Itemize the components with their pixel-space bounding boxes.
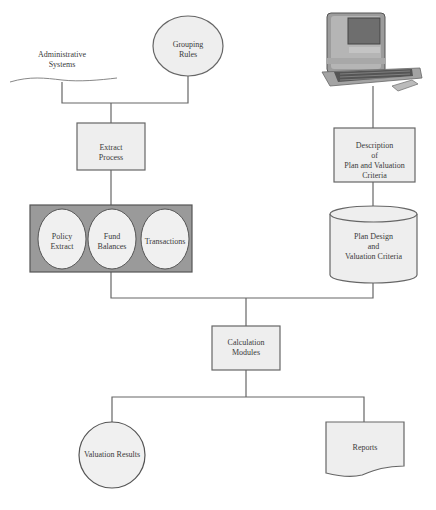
policy-extract-line2: Extract bbox=[38, 242, 86, 252]
description-label: Description of Plan and Valuation Criter… bbox=[334, 141, 415, 181]
reports-label: Reports bbox=[326, 443, 404, 453]
grouping-rules-label: Grouping Rules bbox=[153, 40, 223, 60]
calculation-modules-line1: Calculation bbox=[212, 338, 280, 348]
plan-design-label: Plan Design and Valuation Criteria bbox=[330, 232, 417, 262]
connector-inputs bbox=[62, 76, 188, 103]
plan-design-line3: Valuation Criteria bbox=[330, 252, 417, 262]
computer-icon bbox=[322, 13, 422, 91]
description-line3: Plan and Valuation Criteria bbox=[334, 161, 415, 181]
policy-extract-line1: Policy bbox=[38, 232, 86, 242]
valuation-results-label: Valuation Results bbox=[79, 450, 145, 460]
grouping-rules-line1: Grouping bbox=[153, 40, 223, 50]
calculation-modules-line2: Modules bbox=[212, 348, 280, 358]
administrative-systems-line1: Administrative bbox=[22, 50, 102, 60]
policy-extract-label: Policy Extract bbox=[38, 232, 86, 252]
administrative-systems-label: Administrative Systems bbox=[22, 50, 102, 70]
extract-process-label: Extract Process bbox=[77, 143, 145, 163]
plan-design-line1: Plan Design bbox=[330, 232, 417, 242]
connector-outputs bbox=[112, 397, 364, 422]
description-line1: Description bbox=[334, 141, 415, 151]
fund-balances-line1: Fund bbox=[88, 232, 136, 242]
transactions-label: Transactions bbox=[139, 237, 191, 247]
administrative-systems-shape bbox=[10, 78, 117, 82]
grouping-rules-line2: Rules bbox=[153, 50, 223, 60]
extract-process-line2: Process bbox=[77, 153, 145, 163]
fund-balances-line2: Balances bbox=[88, 242, 136, 252]
calculation-modules-label: Calculation Modules bbox=[212, 338, 280, 358]
description-line2: of bbox=[334, 151, 415, 161]
extract-process-line1: Extract bbox=[77, 143, 145, 153]
fund-balances-label: Fund Balances bbox=[88, 232, 136, 252]
administrative-systems-line2: Systems bbox=[22, 60, 102, 70]
reports-line1: Reports bbox=[326, 443, 404, 453]
valuation-results-line1: Valuation Results bbox=[79, 450, 145, 460]
transactions-line1: Transactions bbox=[139, 237, 191, 247]
plan-design-line2: and bbox=[330, 242, 417, 252]
